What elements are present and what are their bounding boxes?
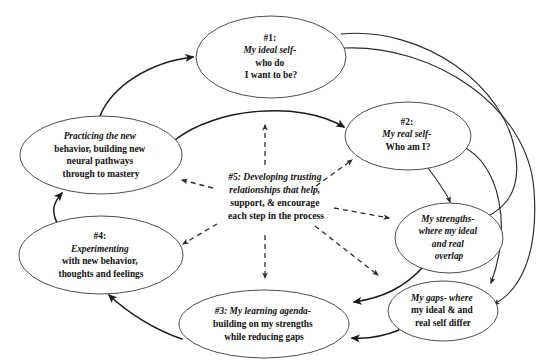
center-note-trusting-relationships[interactable]: #5: Developing trusting relationships th… [227, 171, 324, 221]
node-practicing-shape[interactable] [20, 116, 182, 194]
line-4: I want to be? [245, 70, 298, 80]
line-3: while reducing gaps [224, 332, 304, 342]
line-3: support, & encourage [230, 197, 320, 208]
line-1: #5: Developing trusting [227, 171, 321, 182]
node-learning-agenda-label: #3: My learning agenda- building on my s… [213, 306, 315, 342]
line-4: overlap [435, 251, 464, 261]
line-2: My real self- [381, 129, 431, 139]
line-3: real self differ [415, 318, 471, 328]
line-4: thoughts and feelings [59, 269, 144, 279]
line-1: Practicing the new [64, 131, 137, 141]
node-ideal-self[interactable]: #1: My ideal self- who do I want to be? [196, 16, 346, 98]
edge-note-to-strengths [334, 208, 389, 218]
node-my-gaps[interactable]: My gaps- where my ideal & and real self … [388, 281, 498, 341]
edge-note-to-practicing [182, 180, 213, 188]
node-experimenting-shape[interactable] [19, 216, 183, 294]
node-learning-agenda[interactable]: #3: My learning agenda- building on my s… [179, 290, 349, 358]
center-note-label: #5: Developing trusting relationships th… [227, 171, 324, 221]
diagram-canvas: #1: My ideal self- who do I want to be? … [0, 0, 542, 364]
line-2: Experimenting [70, 244, 129, 254]
edge-gaps-to-learning-agenda [352, 330, 399, 338]
line-2: relationships that help, [229, 184, 320, 195]
edge-note-to-experimenting [183, 224, 217, 244]
line-4: each step in the process [228, 210, 324, 221]
node-my-gaps-label: My gaps- where my ideal & and real self … [410, 293, 475, 328]
edge-practicing-to-ideal-self [100, 57, 193, 116]
node-experimenting[interactable]: #4: Experimenting with new behavior, tho… [19, 216, 183, 294]
edge-real-self-to-strengths [428, 168, 450, 202]
diagram-root: #1: My ideal self- who do I want to be? … [0, 0, 542, 364]
line-1: #4: [94, 231, 107, 241]
line-3: who do [255, 58, 284, 68]
edge-experimenting-to-practicing [54, 193, 62, 223]
line-3: and real [432, 239, 464, 249]
line-4: through to mastery [63, 169, 140, 179]
line-2: my ideal & and [411, 305, 474, 315]
line-3: with new behavior, [62, 256, 137, 266]
edge-learning-agenda-to-experimenting [109, 295, 182, 339]
line-1: #2: [401, 117, 414, 127]
node-practicing[interactable]: Practicing the new behavior, building ne… [20, 116, 182, 194]
line-3: Who am I? [386, 142, 431, 152]
line-1: My strengths- [420, 214, 474, 224]
node-layer: #1: My ideal self- who do I want to be? … [19, 16, 503, 358]
line-1: My gaps- where [410, 293, 472, 303]
line-3: neural pathways [67, 156, 134, 166]
node-my-strengths[interactable]: My strengths- where my ideal and real ov… [395, 203, 503, 273]
line-2: where my ideal [419, 226, 478, 236]
line-2: My ideal self- [243, 45, 297, 55]
edge-practicing-to-real-self [175, 111, 344, 140]
line-2: building on my strengths [213, 319, 313, 329]
line-1: #1: [264, 33, 277, 43]
line-2: behavior, building new [54, 144, 145, 154]
edge-note-to-gaps [315, 226, 378, 275]
line-1: #3: My learning agenda- [214, 306, 311, 316]
node-real-self[interactable]: #2: My real self- Who am I? [345, 102, 471, 170]
